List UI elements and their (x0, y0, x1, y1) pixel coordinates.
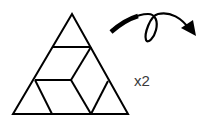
dissected-triangle (13, 14, 128, 114)
multiplier-label: x2 (134, 72, 150, 89)
looping-arrow-icon (111, 13, 196, 41)
outer-triangle (13, 14, 128, 114)
inner-diagonal-lower (71, 80, 91, 114)
inner-diagonal-upper (71, 47, 91, 80)
triangle-puzzle-diagram (0, 0, 207, 122)
bottom-right-divider (91, 81, 108, 114)
bottom-left-divider (35, 80, 52, 114)
